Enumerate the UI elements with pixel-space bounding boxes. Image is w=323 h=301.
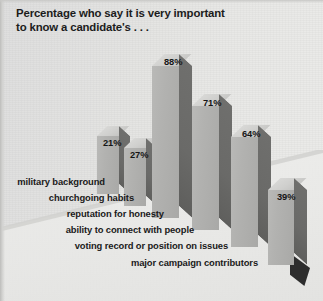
bar-voting-record-or-position-on-issues (231, 137, 258, 247)
bar-value-label: 27% (130, 150, 148, 160)
category-label-ability-to-connect-with-people: ability to connect with people (66, 224, 194, 235)
category-label-churchgoing-habits: churchgoing habits (49, 192, 134, 203)
bar-front-face (231, 137, 258, 247)
category-label-military-background: military background (17, 176, 105, 187)
bar-front-face (152, 66, 179, 218)
bar-ability-to-connect-with-people (192, 106, 219, 230)
category-label-major-campaign-contributors: major campaign contributors (131, 257, 258, 268)
bar-side-face (179, 54, 192, 218)
bar-front-face (192, 106, 219, 230)
bars-layer: 21% 27% 88% 71% 64% (0, 0, 323, 301)
bar-value-label: 64% (242, 129, 260, 139)
bar-value-label: 39% (277, 192, 295, 202)
category-label-reputation-for-honesty: reputation for honesty (67, 208, 164, 219)
bar-value-label: 21% (103, 138, 121, 148)
category-label-voting-record-or-position-on-issues: voting record or position on issues (75, 240, 228, 251)
bar-side-face (294, 178, 307, 265)
bar-reputation-for-honesty (152, 66, 179, 218)
chart-figure: Percentage who say it is very important … (0, 0, 323, 301)
bar-value-label: 71% (203, 98, 221, 108)
bar-value-label: 88% (164, 57, 182, 67)
